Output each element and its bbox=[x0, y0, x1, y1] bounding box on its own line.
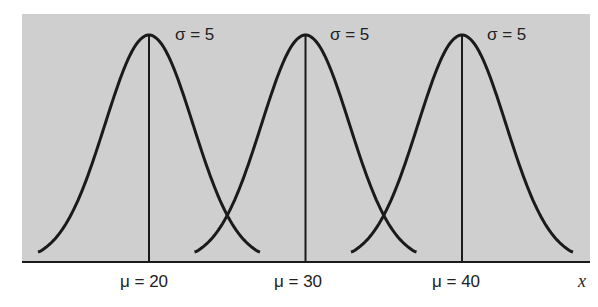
mean-label-3: μ = 40 bbox=[432, 272, 480, 291]
sigma-label-2: σ = 5 bbox=[330, 25, 369, 44]
sigma-label-3: σ = 5 bbox=[487, 25, 526, 44]
x-axis-label: x bbox=[577, 271, 586, 291]
sigma-label-1: σ = 5 bbox=[175, 25, 214, 44]
mean-label-1: μ = 20 bbox=[120, 272, 168, 291]
mean-label-2: μ = 30 bbox=[274, 272, 322, 291]
normal-curves-chart: σ = 5 σ = 5 σ = 5 μ = 20 μ = 30 μ = 40 x bbox=[0, 0, 598, 307]
